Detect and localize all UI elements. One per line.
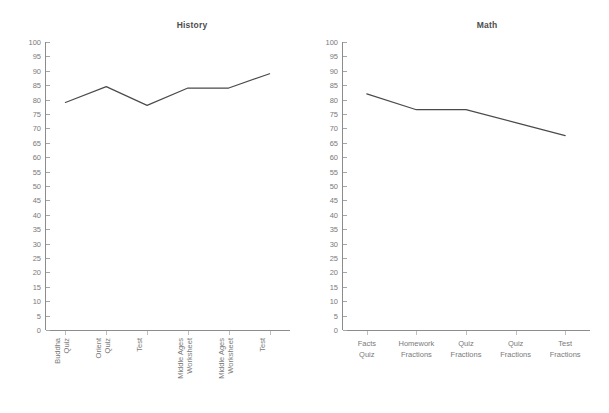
y-axis-tick-label: 40 [33,211,41,220]
x-axis-tick-label: Test [135,337,144,352]
y-axis-tick-label: 95 [33,52,41,61]
y-axis-tick-label: 80 [330,96,338,105]
y-axis-tick-label: 30 [33,240,41,249]
y-axis-tick-label: 45 [33,196,41,205]
x-axis-tick-label: Middle Ages [217,338,226,379]
y-axis-tick-label: 55 [33,168,41,177]
y-axis-tick-label: 45 [330,196,338,205]
y-axis-tick-label: 60 [330,153,338,162]
y-axis-tick-label: 10 [33,297,41,306]
x-axis-tick-label: Quiz [458,339,474,348]
y-axis-tick-label: 0 [334,326,338,335]
y-axis-tick-label: 100 [28,38,41,47]
y-axis-tick-label: 10 [330,297,338,306]
x-axis-tick-label: Middle Ages [176,338,185,379]
x-axis-tick-label: Quiz [508,339,524,348]
data-series-line [367,94,565,136]
y-axis-tick-label: 5 [334,312,338,321]
x-axis-tick-label: Fractions [451,350,482,359]
line-chart-history: 1009590858075706560555045403530252015105… [0,0,304,413]
data-series-line [65,74,269,106]
y-axis-tick-label: 65 [330,139,338,148]
y-axis-tick-label: 20 [330,268,338,277]
y-axis-tick-label: 15 [330,283,338,292]
x-axis-tick-label: Fractions [401,350,432,359]
x-axis-tick-label: Homework [398,339,434,348]
y-axis-tick-label: 60 [33,153,41,162]
y-axis-tick-label: 25 [33,254,41,263]
x-axis-tick-label: Quiz [103,338,112,354]
x-axis-tick-label: Facts [358,339,377,348]
y-axis-tick-label: 95 [330,52,338,61]
x-axis-tick-label: Buddha [53,337,62,364]
y-axis-tick-label: 50 [33,182,41,191]
x-axis-tick-label: Quiz [359,350,375,359]
y-axis-tick-label: 85 [33,81,41,90]
x-axis-tick-label: Worksheet [226,337,235,374]
y-axis-tick-label: 55 [330,168,338,177]
y-axis-tick-label: 80 [33,96,41,105]
y-axis-tick-label: 100 [325,38,338,47]
y-axis-tick-label: 35 [330,225,338,234]
y-axis-tick-label: 20 [33,268,41,277]
y-axis-tick-label: 75 [33,110,41,119]
y-axis-tick-label: 40 [330,211,338,220]
chart-panel-history: History 10095908580757065605550454035302… [0,0,304,413]
y-axis-tick-label: 90 [330,67,338,76]
x-axis-tick-label: Worksheet [185,337,194,374]
x-axis-tick-label: Fractions [550,350,581,359]
y-axis-tick-label: 70 [33,124,41,133]
x-axis-tick-label: Fractions [500,350,531,359]
y-axis-tick-label: 90 [33,67,41,76]
y-axis-tick-label: 15 [33,283,41,292]
y-axis-tick-label: 70 [330,124,338,133]
x-axis-tick-label: Quiz [62,338,71,354]
y-axis-tick-label: 0 [37,326,41,335]
chart-page: History 10095908580757065605550454035302… [0,0,609,413]
y-axis-tick-label: 25 [330,254,338,263]
y-axis-tick-label: 30 [330,240,338,249]
y-axis-tick-label: 5 [37,312,41,321]
y-axis-tick-label: 85 [330,81,338,90]
chart-panel-math: Math 10095908580757065605550454035302520… [305,0,609,413]
x-axis-tick-label: Orient [94,337,103,358]
x-axis-tick-label: Test [258,337,267,352]
line-chart-math: 1009590858075706560555045403530252015105… [305,0,609,413]
y-axis-tick-label: 35 [33,225,41,234]
x-axis-tick-label: Test [558,339,573,348]
y-axis-tick-label: 50 [330,182,338,191]
y-axis-tick-label: 65 [33,139,41,148]
y-axis-tick-label: 75 [330,110,338,119]
